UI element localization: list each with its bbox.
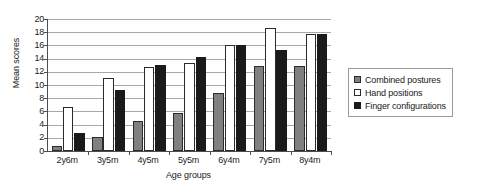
- x-axis-tick-label: 6y4m: [209, 155, 249, 165]
- bar: [196, 57, 207, 151]
- legend-item: Combined postures: [354, 73, 446, 86]
- bar: [294, 66, 305, 151]
- legend-item: Hand positions: [354, 86, 446, 99]
- x-axis-tick-label: 8y4m: [290, 155, 330, 165]
- y-axis-tick-label: 12: [24, 67, 44, 76]
- y-axis-tick-label: 6: [24, 107, 44, 116]
- bar: [276, 50, 287, 151]
- x-axis-tick-label: 7y5m: [249, 155, 289, 165]
- x-axis-tick-label: 2y6m: [47, 155, 87, 165]
- bar: [144, 67, 155, 151]
- bar: [92, 137, 103, 151]
- x-axis-tick-labels: 2y6m3y5m4y5m5y5m6y4m7y5m8y4m: [47, 155, 330, 169]
- bar: [63, 107, 74, 151]
- legend-item-label: Combined postures: [365, 75, 441, 85]
- y-axis-tick-label: 4: [24, 120, 44, 129]
- x-axis-title: Age groups: [47, 170, 330, 180]
- bar: [254, 66, 265, 151]
- bar: [173, 113, 184, 151]
- bar: [213, 93, 224, 151]
- bar: [184, 63, 195, 151]
- bar: [115, 90, 126, 151]
- x-axis-tick-label: 5y5m: [168, 155, 208, 165]
- x-axis-tick-label: 4y5m: [128, 155, 168, 165]
- bar: [225, 45, 236, 151]
- x-axis-tick-mark: [331, 151, 332, 155]
- bar-chart: Mean scores 02468101214161820 2y6m3y5m4y…: [0, 0, 479, 189]
- bars-layer: [48, 19, 331, 151]
- plot-area: [47, 19, 331, 152]
- bar: [103, 78, 114, 151]
- legend-item-label: Hand positions: [365, 88, 422, 98]
- bar: [74, 133, 85, 151]
- legend-swatch-icon: [354, 89, 361, 96]
- y-axis-tick-label: 10: [24, 81, 44, 90]
- y-axis-tick-mark: [44, 151, 48, 152]
- y-axis-tick-label: 16: [24, 41, 44, 50]
- y-axis-tick-labels: 02468101214161820: [24, 19, 44, 151]
- legend-swatch-icon: [354, 76, 361, 83]
- y-axis-tick-label: 14: [24, 54, 44, 63]
- bar: [133, 121, 144, 151]
- legend-swatch-icon: [354, 102, 361, 109]
- x-axis-tick-label: 3y5m: [87, 155, 127, 165]
- chart-legend: Combined posturesHand positionsFinger co…: [348, 68, 453, 117]
- y-axis-title: Mean scores: [11, 23, 21, 103]
- bar: [265, 28, 276, 151]
- bar: [236, 45, 247, 151]
- y-axis-tick-label: 8: [24, 94, 44, 103]
- bar: [52, 146, 63, 151]
- y-axis-tick-label: 2: [24, 133, 44, 142]
- y-axis-tick-label: 0: [24, 147, 44, 156]
- y-axis-tick-label: 20: [24, 15, 44, 24]
- bar: [317, 34, 328, 151]
- y-axis-tick-label: 18: [24, 28, 44, 37]
- legend-item-label: Finger configurations: [365, 101, 446, 111]
- bar: [306, 34, 317, 151]
- bar: [155, 65, 166, 151]
- legend-item: Finger configurations: [354, 99, 446, 112]
